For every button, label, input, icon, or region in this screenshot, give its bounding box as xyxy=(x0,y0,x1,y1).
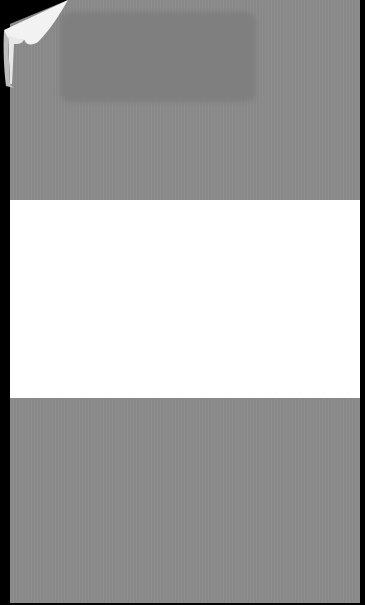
darker-rounded-patch xyxy=(60,12,256,102)
black-background-right xyxy=(361,0,365,605)
curled-corner-icon xyxy=(0,0,75,92)
gray-bottom-section xyxy=(10,398,360,603)
white-band xyxy=(10,200,360,398)
